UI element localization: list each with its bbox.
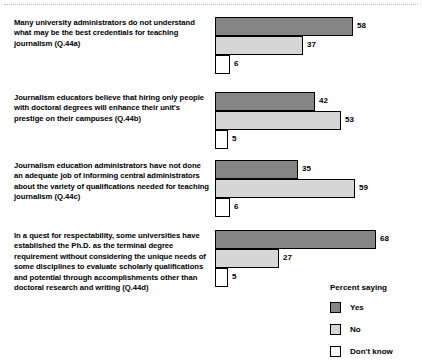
bar-value-yes: 58 — [357, 21, 366, 30]
bar-value-dont-know: 6 — [234, 202, 238, 211]
chart-legend: Percent saying Yes No Don't know — [330, 283, 422, 361]
bar-dont-know — [215, 55, 230, 74]
bar-no — [215, 249, 279, 268]
legend-item-yes: Yes — [330, 301, 422, 313]
legend-label-no: No — [350, 325, 361, 334]
bar-value-yes: 42 — [319, 96, 328, 105]
bar-dont-know — [215, 130, 228, 149]
bar-value-no: 27 — [283, 253, 292, 262]
bar-yes — [215, 160, 298, 179]
bar-yes — [215, 92, 315, 111]
bar-yes — [215, 230, 376, 249]
legend-label-dont-know: Don't know — [350, 347, 393, 356]
bar-value-dont-know: 5 — [232, 134, 236, 143]
top-divider-rule — [4, 4, 418, 5]
bar-value-no: 59 — [359, 183, 368, 192]
legend-swatch-dont-know-icon — [330, 346, 341, 357]
bar-value-no: 53 — [345, 115, 354, 124]
legend-title: Percent saying — [330, 283, 422, 292]
legend-swatch-no-icon — [330, 324, 341, 335]
bar-no — [215, 179, 355, 198]
question-label-q44b: Journalism educators believe that hiring… — [14, 93, 210, 124]
legend-swatch-yes-icon — [330, 302, 341, 313]
bar-dont-know — [215, 198, 230, 217]
legend-item-no: No — [330, 323, 422, 335]
bar-value-yes: 68 — [380, 234, 389, 243]
bar-value-yes: 35 — [302, 164, 311, 173]
bar-no — [215, 111, 341, 130]
question-label-q44a: Many university administrators do not un… — [14, 18, 210, 49]
bar-no — [215, 36, 303, 55]
question-label-q44d: In a quest for respectability, some univ… — [14, 231, 210, 293]
bar-value-no: 37 — [307, 40, 316, 49]
bar-value-dont-know: 5 — [232, 272, 236, 281]
bar-value-dont-know: 6 — [234, 59, 238, 68]
question-label-q44c: Journalism education administrators have… — [14, 161, 210, 203]
legend-item-dont-know: Don't know — [330, 345, 422, 357]
legend-label-yes: Yes — [350, 303, 364, 312]
bar-dont-know — [215, 268, 228, 287]
bar-yes — [215, 17, 353, 36]
